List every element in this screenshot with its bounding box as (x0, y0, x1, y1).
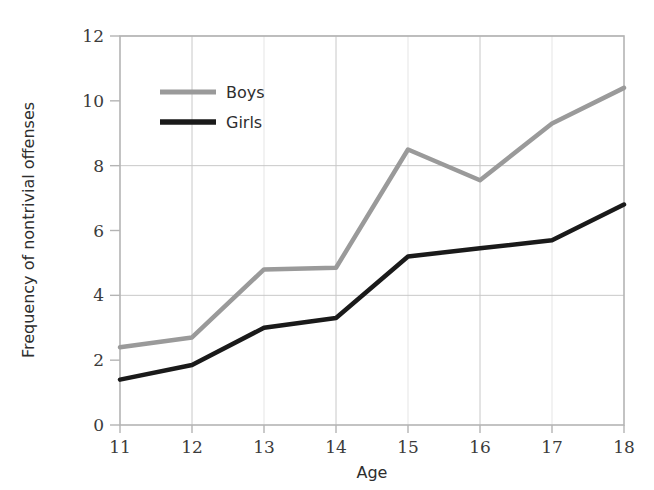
y-tick-label-2: 2 (93, 350, 104, 370)
x-tick-label-15: 15 (397, 437, 419, 457)
y-tick-label-8: 8 (93, 156, 104, 176)
line-chart: 024681012 1112131415161718 Frequency of … (0, 0, 654, 490)
legend-label-boys: Boys (226, 83, 265, 102)
x-axis-title: Age (357, 463, 388, 482)
x-tick-label-17: 17 (541, 437, 563, 457)
x-tick-label-18: 18 (613, 437, 635, 457)
y-tick-label-10: 10 (82, 91, 104, 111)
legend-label-girls: Girls (226, 113, 262, 132)
x-tick-label-14: 14 (325, 437, 347, 457)
y-tick-label-12: 12 (82, 26, 104, 46)
y-tick-label-0: 0 (93, 415, 104, 435)
x-tick-label-11: 11 (109, 437, 131, 457)
x-tick-label-13: 13 (253, 437, 275, 457)
x-tick-label-12: 12 (181, 437, 203, 457)
y-tick-label-6: 6 (93, 221, 104, 241)
y-tick-label-4: 4 (93, 285, 104, 305)
x-tick-label-16: 16 (469, 437, 491, 457)
chart-figure: 024681012 1112131415161718 Frequency of … (0, 0, 654, 490)
y-axis-title: Frequency of nontrivial offenses (19, 102, 38, 358)
